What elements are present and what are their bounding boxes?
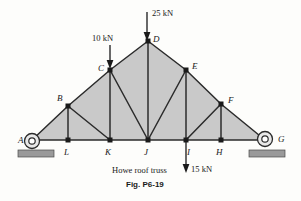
joint-label-B: B — [57, 93, 63, 103]
joint-dot-E — [184, 68, 189, 73]
joint-label-C: C — [98, 63, 105, 73]
panel-right-mid — [186, 70, 221, 140]
joint-label-L: L — [63, 147, 69, 157]
support-pin-inner-left — [29, 138, 35, 144]
truss-figure: A B C D E F G L K J I H 25 kN 10 kN 15 k… — [0, 0, 301, 201]
joint-label-G: G — [278, 134, 285, 144]
joint-dot-J — [146, 138, 151, 143]
support-base-left — [18, 150, 54, 157]
support-base-right — [249, 150, 285, 157]
panel-left-mid — [68, 70, 110, 140]
joint-label-F: F — [227, 95, 234, 105]
joint-dot-H — [219, 138, 224, 143]
joint-dot-B — [66, 104, 71, 109]
support-roller-inner-right — [262, 136, 268, 142]
joint-label-I: I — [186, 147, 191, 157]
load-label-25kN: 25 kN — [152, 8, 173, 18]
joint-dot-D — [146, 39, 151, 44]
figure-number: Fig. P6-19 — [126, 180, 164, 189]
joint-dot-F — [219, 102, 224, 107]
joint-label-D: D — [152, 34, 160, 44]
joint-label-A: A — [17, 135, 24, 145]
joint-dot-L — [66, 138, 71, 143]
joint-label-E: E — [191, 61, 198, 71]
joint-label-H: H — [215, 147, 223, 157]
load-arrow-15kN-head — [183, 164, 190, 173]
joint-label-K: K — [104, 147, 112, 157]
figure-caption: Howe roof truss — [112, 165, 167, 175]
joint-dot-K — [108, 138, 113, 143]
joint-label-J: J — [144, 147, 149, 157]
load-label-10kN: 10 kN — [92, 33, 113, 43]
load-label-15kN: 15 kN — [191, 164, 212, 174]
truss-diagram-svg: A B C D E F G L K J I H 25 kN 10 kN 15 k… — [0, 0, 301, 201]
